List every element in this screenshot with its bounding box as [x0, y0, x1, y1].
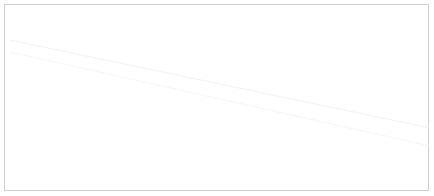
chart-canvas	[0, 0, 434, 196]
background-diagonal-artifact	[10, 40, 430, 146]
figure	[0, 0, 434, 196]
line-chart	[0, 0, 434, 196]
